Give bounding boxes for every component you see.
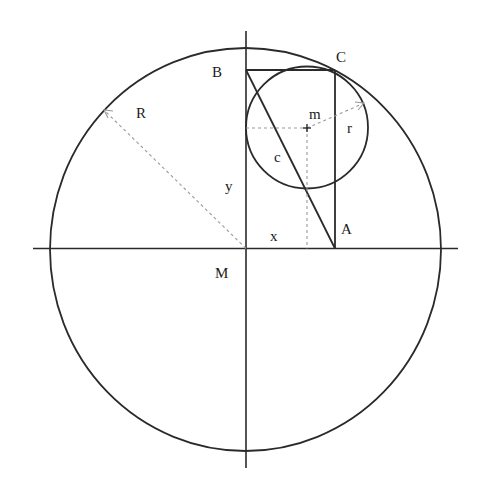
label-A: A (341, 221, 352, 237)
label-R: R (136, 105, 146, 121)
label-m: m (309, 106, 321, 122)
label-x: x (270, 228, 278, 244)
label-c: c (274, 149, 281, 165)
label-M: M (215, 265, 228, 281)
label-B: B (212, 64, 222, 80)
label-r: r (347, 120, 352, 136)
label-y: y (225, 178, 233, 194)
geometry-diagram: B C A M m R r c x y (0, 0, 481, 501)
diagonal-c (246, 70, 335, 249)
label-C: C (336, 49, 346, 65)
